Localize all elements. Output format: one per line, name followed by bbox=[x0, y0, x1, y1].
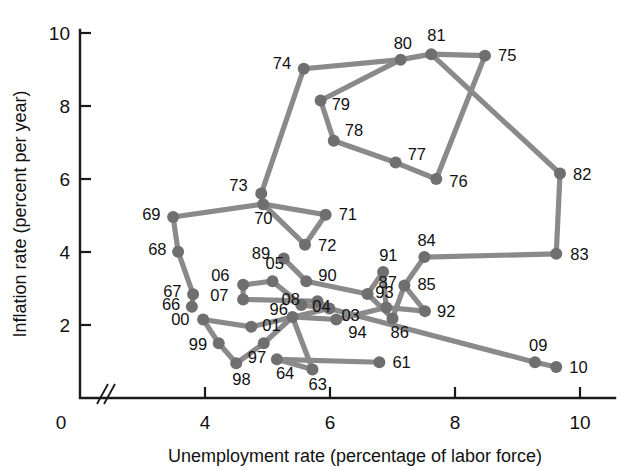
data-point-label: 09 bbox=[529, 336, 547, 354]
data-point-label: 90 bbox=[318, 266, 336, 284]
data-point-label: 03 bbox=[341, 306, 359, 324]
data-point-marker[interactable] bbox=[237, 293, 249, 305]
data-point-label: 80 bbox=[394, 34, 412, 52]
data-point-label: 84 bbox=[417, 231, 435, 249]
data-point-label: 85 bbox=[417, 275, 435, 293]
x-tick-label: 6 bbox=[325, 412, 336, 433]
y-tick-label: 10 bbox=[49, 23, 70, 44]
data-point-marker[interactable] bbox=[380, 301, 392, 313]
data-point-label: 78 bbox=[345, 121, 363, 139]
data-point-marker[interactable] bbox=[550, 248, 562, 260]
data-point-label: 61 bbox=[392, 353, 410, 371]
data-point-label: 64 bbox=[276, 364, 294, 382]
data-point-marker[interactable] bbox=[479, 50, 491, 62]
series-segment bbox=[556, 174, 560, 254]
data-point-marker[interactable] bbox=[230, 357, 242, 369]
data-point-marker[interactable] bbox=[298, 63, 310, 75]
x-tick-label: 4 bbox=[200, 412, 211, 433]
data-point-label: 00 bbox=[171, 310, 189, 328]
series-segment bbox=[334, 141, 396, 163]
data-point-label: 70 bbox=[254, 209, 272, 227]
x-axis-zero-label: 0 bbox=[56, 412, 67, 433]
y-tick-label: 4 bbox=[59, 242, 70, 263]
y-axis-ticks: 246810 bbox=[49, 23, 91, 336]
series-segment bbox=[261, 69, 304, 194]
data-point-marker[interactable] bbox=[255, 188, 267, 200]
y-axis-title: Inflation rate (percent per year) bbox=[10, 90, 30, 337]
data-point-label: 86 bbox=[391, 323, 409, 341]
data-point-marker[interactable] bbox=[373, 356, 385, 368]
data-point-label: 83 bbox=[570, 245, 588, 263]
data-point-marker[interactable] bbox=[213, 337, 225, 349]
data-point-label: 69 bbox=[142, 205, 160, 223]
data-point-marker[interactable] bbox=[430, 173, 442, 185]
data-point-marker[interactable] bbox=[172, 246, 184, 258]
series-segment bbox=[306, 281, 367, 294]
y-tick-label: 8 bbox=[59, 96, 70, 117]
data-point-label: 05 bbox=[266, 254, 284, 272]
data-point-marker[interactable] bbox=[197, 314, 209, 326]
y-tick-label: 2 bbox=[59, 315, 70, 336]
series-segment bbox=[173, 204, 263, 217]
data-point-label: 94 bbox=[348, 323, 366, 341]
data-point-label: 81 bbox=[427, 26, 445, 44]
data-point-marker[interactable] bbox=[529, 356, 541, 368]
data-point-label: 71 bbox=[339, 205, 357, 223]
data-point-label: 91 bbox=[379, 246, 397, 264]
data-point-label: 72 bbox=[318, 236, 336, 254]
data-point-label: 93 bbox=[375, 283, 393, 301]
data-point-marker[interactable] bbox=[237, 279, 249, 291]
x-axis-ticks: 46810 bbox=[200, 387, 591, 433]
chart-svg: 6163646667686970717273747576777879808182… bbox=[0, 0, 623, 470]
data-point-marker[interactable] bbox=[554, 168, 566, 180]
data-point-label: 82 bbox=[573, 165, 591, 183]
data-point-marker[interactable] bbox=[187, 288, 199, 300]
data-point-label: 73 bbox=[229, 176, 247, 194]
data-point-label: 98 bbox=[232, 370, 250, 388]
data-point-label: 04 bbox=[312, 297, 330, 315]
data-point-label: 68 bbox=[148, 240, 166, 258]
data-point-marker[interactable] bbox=[418, 251, 430, 263]
series-segment bbox=[396, 163, 437, 179]
series-segment bbox=[436, 56, 485, 179]
data-point-label: 10 bbox=[569, 358, 587, 376]
data-point-label: 77 bbox=[408, 145, 426, 163]
data-point-marker[interactable] bbox=[287, 311, 299, 323]
data-point-marker[interactable] bbox=[299, 239, 311, 251]
data-point-label: 63 bbox=[309, 375, 327, 393]
data-point-label: 92 bbox=[437, 302, 455, 320]
data-point-label: 01 bbox=[262, 316, 280, 334]
data-point-marker[interactable] bbox=[419, 305, 431, 317]
data-point-marker[interactable] bbox=[550, 361, 562, 373]
data-point-label: 75 bbox=[498, 46, 516, 64]
data-point-label: 79 bbox=[332, 95, 350, 113]
data-point-marker[interactable] bbox=[395, 54, 407, 66]
data-point-marker[interactable] bbox=[425, 48, 437, 60]
x-axis-title: Unemployment rate (percentage of labor f… bbox=[168, 446, 542, 466]
data-point-label: 07 bbox=[210, 286, 228, 304]
series-segment bbox=[424, 254, 556, 257]
data-point-marker[interactable] bbox=[320, 209, 332, 221]
data-point-marker[interactable] bbox=[315, 95, 327, 107]
data-point-marker[interactable] bbox=[267, 275, 279, 287]
x-tick-label: 10 bbox=[569, 412, 590, 433]
data-point-marker[interactable] bbox=[328, 135, 340, 147]
data-point-label: 67 bbox=[163, 282, 181, 300]
data-point-marker[interactable] bbox=[362, 288, 374, 300]
data-point-label: 08 bbox=[282, 290, 300, 308]
data-point-label: 99 bbox=[189, 335, 207, 353]
data-point-marker[interactable] bbox=[167, 211, 179, 223]
data-point-marker[interactable] bbox=[390, 157, 402, 169]
data-point-label: 76 bbox=[449, 172, 467, 190]
data-point-label: 97 bbox=[248, 348, 266, 366]
phillips-curve-chart: 6163646667686970717273747576777879808182… bbox=[0, 0, 623, 470]
data-point-label: 06 bbox=[211, 266, 229, 284]
series-segment bbox=[431, 54, 560, 173]
data-point-label: 74 bbox=[273, 54, 291, 72]
data-point-marker[interactable] bbox=[300, 275, 312, 287]
x-tick-label: 8 bbox=[450, 412, 461, 433]
data-point-marker[interactable] bbox=[398, 280, 410, 292]
data-point-marker[interactable] bbox=[245, 321, 257, 333]
series-segment bbox=[203, 320, 251, 327]
series-segment bbox=[431, 54, 485, 55]
